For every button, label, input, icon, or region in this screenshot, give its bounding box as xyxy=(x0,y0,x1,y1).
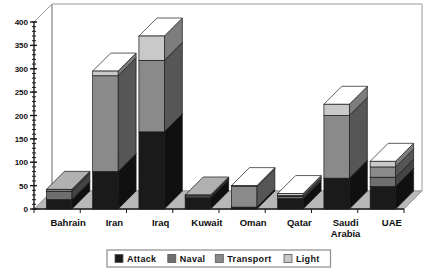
x-axis-category-label: Saudi xyxy=(333,217,359,228)
x-axis: UAESaudiArabiaQatarOmanKuwaitIraqIranBah… xyxy=(34,209,404,239)
bar-segment-side xyxy=(118,58,136,172)
x-axis-category-label: UAE xyxy=(382,217,402,228)
x-axis-category-label: Bahrain xyxy=(50,217,86,228)
y-axis-tick-label: 250 xyxy=(15,88,29,97)
y-axis-tick-label: 350 xyxy=(15,41,29,50)
legend-label: Transport xyxy=(227,254,271,264)
y-axis-tick-label: 50 xyxy=(19,182,28,191)
bar-segment-front xyxy=(93,76,118,172)
bar-segment-front xyxy=(139,60,164,132)
bar-chart: 050100150200250300350400 UAESaudiArabiaQ… xyxy=(0,0,437,277)
bar-segment-front xyxy=(324,116,349,179)
bar-segment-front xyxy=(46,189,71,191)
chart-legend: AttackNavalTransportLight xyxy=(107,250,331,267)
bar-segment-front xyxy=(370,187,395,209)
bar-segment-front xyxy=(139,132,164,209)
y-axis-tick-label: 0 xyxy=(24,205,29,214)
x-axis-category-label: Iraq xyxy=(152,217,170,228)
x-axis-category-label: Kuwait xyxy=(191,217,223,228)
x-axis-category-label: Oman xyxy=(240,217,267,228)
bar-segment-front xyxy=(324,178,349,209)
bar-segment-front xyxy=(185,198,210,209)
frame-top-connector xyxy=(34,4,52,22)
bar-segment-front xyxy=(139,36,164,60)
chart-canvas: 050100150200250300350400 UAESaudiArabiaQ… xyxy=(0,0,437,277)
bar-column xyxy=(139,18,182,209)
y-axis-tick-label: 150 xyxy=(15,135,29,144)
legend-swatch xyxy=(215,255,223,263)
x-axis-category-label: Iran xyxy=(106,217,124,228)
bar-segment-front xyxy=(324,104,349,115)
bar-segment-front xyxy=(93,172,118,209)
bar-segment-front xyxy=(370,161,395,167)
x-axis-category-label: Qatar xyxy=(287,217,312,228)
legend-item: Light xyxy=(284,254,320,264)
legend-item: Naval xyxy=(168,254,206,264)
y-axis-tick-label: 200 xyxy=(15,112,29,121)
bar-column xyxy=(93,53,136,209)
bar-segment-front xyxy=(46,200,71,209)
legend-swatch xyxy=(168,255,176,263)
legend-swatch xyxy=(284,255,292,263)
bar-segment-front xyxy=(185,195,210,196)
bar-segment-front xyxy=(93,71,118,76)
bar-segment-front xyxy=(370,177,395,186)
y-axis-tick-label: 400 xyxy=(15,18,29,27)
x-axis-category-label: Arabia xyxy=(331,228,361,239)
legend-label: Naval xyxy=(180,254,206,264)
y-axis-tick-label: 100 xyxy=(15,158,29,167)
bar-column xyxy=(324,86,367,209)
legend-swatch xyxy=(115,255,123,263)
bar-segment-front xyxy=(231,187,256,208)
legend-item: Attack xyxy=(115,254,157,264)
bar-segment-front xyxy=(278,199,303,209)
bar-segment-front xyxy=(370,167,395,177)
bar-segment-front xyxy=(278,196,303,198)
bar-segment-front xyxy=(231,186,256,187)
legend-label: Attack xyxy=(127,254,157,264)
bar-segment-front xyxy=(278,194,303,196)
y-axis-tick-label: 300 xyxy=(15,65,29,74)
bar-segment-front xyxy=(46,191,71,199)
legend-label: Light xyxy=(296,254,320,264)
